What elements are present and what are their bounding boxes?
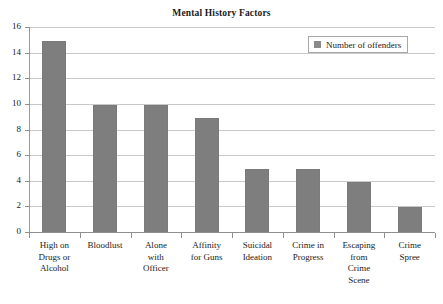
legend-swatch-icon xyxy=(314,41,321,48)
chart-legend: Number of offenders xyxy=(308,36,408,53)
bar[interactable] xyxy=(245,169,269,233)
clipped-header-text xyxy=(0,0,443,3)
legend-label: Number of offenders xyxy=(326,40,401,50)
y-axis-tick-label: 10 xyxy=(0,98,21,108)
x-axis-labels: High onDrugs orAlcoholBloodlustAlonewith… xyxy=(29,240,435,302)
bar[interactable] xyxy=(347,182,371,233)
chart-title: Mental History Factors xyxy=(0,8,443,18)
bar-series xyxy=(29,27,435,233)
x-axis-category-label: Crime inProgress xyxy=(283,240,334,263)
x-axis-tick xyxy=(232,233,233,238)
bar-slot xyxy=(232,27,283,233)
bar-slot xyxy=(29,27,80,233)
y-axis-tick-label: 12 xyxy=(0,72,21,82)
bar-slot xyxy=(80,27,131,233)
x-axis-tick xyxy=(384,233,385,238)
x-axis-category-label: AlonewithOfficer xyxy=(131,240,182,275)
bar-slot xyxy=(181,27,232,233)
y-axis-tick-label: 6 xyxy=(0,149,21,159)
x-axis-tick xyxy=(181,233,182,238)
x-axis-tick xyxy=(29,233,30,238)
y-axis-tick-label: 14 xyxy=(0,47,21,57)
bar-slot xyxy=(334,27,385,233)
y-axis-tick-label: 4 xyxy=(0,175,21,185)
bar[interactable] xyxy=(195,118,219,233)
bar[interactable] xyxy=(296,169,320,233)
bar-slot xyxy=(283,27,334,233)
x-axis-category-label: Bloodlust xyxy=(80,240,131,252)
x-axis-tick xyxy=(80,233,81,238)
bar[interactable] xyxy=(398,207,422,233)
y-axis-tick-label: 2 xyxy=(0,200,21,210)
x-axis-category-label: Affinityfor Guns xyxy=(181,240,232,263)
bar[interactable] xyxy=(93,105,117,233)
bar[interactable] xyxy=(144,105,168,233)
bar-chart: Mental History Factors 0246810121416 Hig… xyxy=(0,0,443,304)
x-axis-tick xyxy=(131,233,132,238)
y-axis-tick-label: 0 xyxy=(0,226,21,236)
x-axis-category-label: High onDrugs orAlcohol xyxy=(29,240,80,275)
x-axis-tick xyxy=(334,233,335,238)
y-axis-tick-label: 16 xyxy=(0,21,21,31)
bar-slot xyxy=(384,27,435,233)
x-axis-tick xyxy=(283,233,284,238)
x-axis-tick xyxy=(435,233,436,238)
x-axis-category-label: CrimeSpree xyxy=(384,240,435,263)
bar-slot xyxy=(131,27,182,233)
x-axis-category-label: EscapingfromCrimeScene xyxy=(334,240,385,286)
x-axis-category-label: SuicidalIdeation xyxy=(232,240,283,263)
bar[interactable] xyxy=(42,41,66,233)
y-axis-tick-label: 8 xyxy=(0,124,21,134)
